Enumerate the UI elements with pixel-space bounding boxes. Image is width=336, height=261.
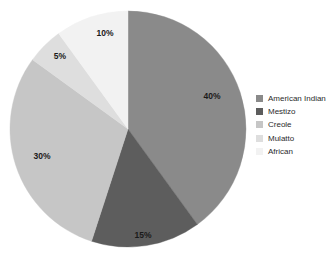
slice-value-label-mulatto: 5% [54,51,67,61]
pie-chart-figure: 40%15%30%5%10% American IndianMestizoCre… [0,0,336,261]
legend-swatch-icon [256,121,263,128]
legend-swatch-icon [256,95,263,102]
slice-value-label-american-indian: 40% [203,91,220,101]
slice-value-label-creole: 30% [33,151,50,161]
slice-value-label-mestizo: 15% [134,230,151,240]
legend-item-american-indian[interactable]: American Indian [256,92,336,105]
slice-value-label-african: 10% [96,28,113,38]
legend-item-mestizo[interactable]: Mestizo [256,105,336,118]
legend-item-african[interactable]: African [256,145,336,158]
legend-item-label: Mestizo [268,105,296,118]
legend-swatch-icon [256,148,263,155]
legend-item-label: African [268,145,293,158]
pie-slices [10,11,246,247]
legend-item-label: Mulatto [268,132,294,145]
legend-item-creole[interactable]: Creole [256,118,336,131]
legend-swatch-icon [256,108,263,115]
legend-item-label: Creole [268,118,292,131]
legend-item-mulatto[interactable]: Mulatto [256,132,336,145]
chart-legend: American IndianMestizoCreoleMulattoAfric… [256,92,336,158]
legend-swatch-icon [256,135,263,142]
legend-item-label: American Indian [268,92,326,105]
